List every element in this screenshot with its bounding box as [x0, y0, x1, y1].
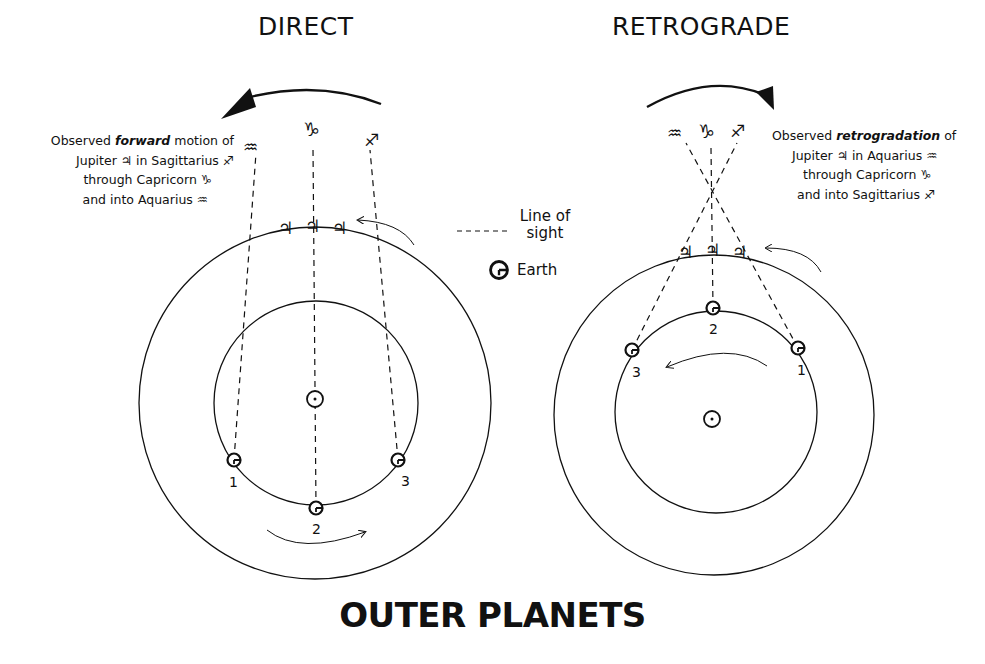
diagram-canvas: ♒ ♑ ♐ ♃ ♃ ♃ 1 2 3 — [0, 0, 985, 664]
sun-icon — [307, 391, 323, 407]
jupiter-icon-1: ♃ — [678, 242, 693, 262]
earth-icon-3 — [392, 454, 405, 467]
earth-icon-1 — [792, 342, 805, 355]
sagittarius-icon: ♐ — [364, 130, 379, 150]
lines-of-sight — [234, 148, 398, 508]
jupiter-icon-3: ♃ — [732, 242, 747, 262]
legend-earth-icon — [491, 262, 508, 279]
jupiter-icon-3: ♃ — [332, 218, 347, 238]
earth-icon-2 — [310, 502, 323, 515]
earth-position-label-2: 2 — [709, 321, 718, 337]
retrograde-motion-arrowhead — [756, 86, 774, 110]
earth-icon-3 — [626, 344, 639, 357]
earth-position-label-1: 1 — [797, 362, 806, 378]
jupiter-icon-2: ♃ — [305, 216, 320, 236]
retrograde-motion-arrow — [647, 86, 765, 107]
sun-icon — [704, 411, 720, 427]
sagittarius-icon: ♐ — [730, 121, 745, 141]
jupiter-orbit-arrow — [766, 248, 821, 272]
jupiter-icon-1: ♃ — [278, 218, 293, 238]
earth-orbit-arrow — [667, 353, 767, 367]
direct-motion-arrow — [250, 90, 381, 104]
direct-motion-arrowhead — [221, 88, 256, 119]
capricorn-icon: ♑ — [698, 120, 715, 142]
legend — [457, 231, 507, 278]
capricorn-icon: ♑ — [303, 118, 320, 140]
retrograde-diagram: ♒ ♑ ♐ ♃ ♃ ♃ 1 2 3 — [554, 86, 874, 575]
earth-position-label-3: 3 — [401, 473, 410, 489]
earth-position-label-2: 2 — [312, 521, 321, 537]
earth-position-label-1: 1 — [229, 474, 238, 490]
direct-diagram: ♒ ♑ ♐ ♃ ♃ ♃ 1 2 3 — [139, 88, 491, 579]
earth-icon-1 — [228, 454, 241, 467]
jupiter-icon-2: ♃ — [705, 240, 720, 260]
aquarius-icon: ♒ — [667, 123, 682, 143]
aquarius-icon: ♒ — [243, 137, 258, 157]
earth-icon-2 — [707, 302, 720, 315]
earth-position-label-3: 3 — [632, 364, 641, 380]
